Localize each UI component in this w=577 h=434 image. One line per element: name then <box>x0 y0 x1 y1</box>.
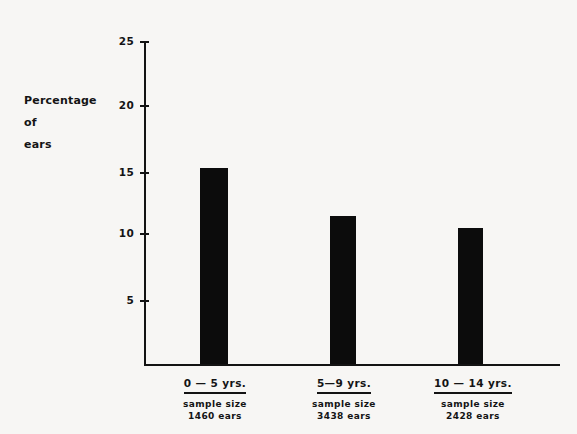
y-tick-mark-10 <box>140 233 149 235</box>
y-tick-label-20: 20 <box>96 99 134 111</box>
x-group-label-0-5: 0 — 5 yrs. sample size 1460 ears <box>155 372 275 421</box>
y-tick-mark-20 <box>140 105 149 107</box>
y-tick-mark-15 <box>140 172 149 174</box>
y-axis-title-line-2: of <box>24 112 124 134</box>
y-tick-label-15: 15 <box>96 166 134 178</box>
y-axis-line <box>144 41 146 366</box>
x-group-range-0-5: 0 — 5 yrs. <box>184 377 246 394</box>
y-tick-label-5: 5 <box>96 294 134 306</box>
x-group-label-10-14: 10 — 14 yrs. sample size 2428 ears <box>412 372 534 421</box>
y-tick-label-25: 25 <box>96 35 134 47</box>
x-group-label-5-9: 5—9 yrs. sample size 3438 ears <box>285 372 403 421</box>
bar-5-9-yrs <box>330 216 356 364</box>
x-group-sample-label-0-5: sample size <box>155 399 275 409</box>
x-group-sample-label-10-14: sample size <box>412 399 534 409</box>
bar-10-14-yrs <box>458 228 483 364</box>
x-group-sample-count-5-9: 3438 ears <box>285 411 403 421</box>
y-tick-mark-25 <box>140 41 149 43</box>
x-group-sample-label-5-9: sample size <box>285 399 403 409</box>
x-group-sample-count-10-14: 2428 ears <box>412 411 534 421</box>
y-axis-title-line-3: ears <box>24 134 124 156</box>
y-tick-mark-5 <box>140 300 149 302</box>
x-group-range-5-9: 5—9 yrs. <box>317 377 371 394</box>
x-axis-line <box>144 364 560 366</box>
bar-0-5-yrs <box>200 168 228 364</box>
x-group-range-10-14: 10 — 14 yrs. <box>434 377 512 394</box>
y-tick-label-10: 10 <box>96 227 134 239</box>
x-group-sample-count-0-5: 1460 ears <box>155 411 275 421</box>
bar-chart: Percentage of ears 25 20 15 10 5 0 — 5 y… <box>0 0 577 434</box>
